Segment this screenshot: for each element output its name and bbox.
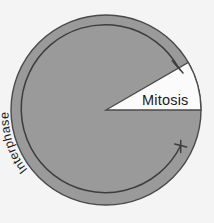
cell-cycle-diagram: Mitosis Interphase [0, 0, 214, 223]
cell-cycle-chart: Mitosis Interphase [0, 0, 214, 223]
mitosis-label: Mitosis [142, 92, 189, 108]
